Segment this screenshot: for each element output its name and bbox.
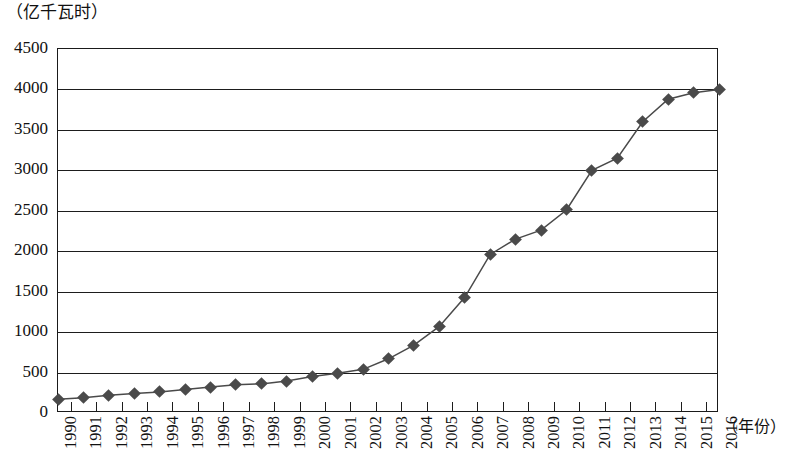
y-tick-label: 3000 [0, 160, 48, 177]
x-tick-label: 1999 [292, 416, 309, 449]
x-tick-label: 2008 [521, 416, 538, 449]
x-tick-label: 2001 [343, 416, 360, 449]
x-tick-label: 1990 [63, 416, 80, 449]
x-tick-label: 2012 [622, 416, 639, 449]
x-tick-label: 2002 [368, 416, 385, 449]
x-tick-label: 1993 [139, 416, 156, 449]
data-series-layer [58, 49, 717, 411]
x-tick-label: 2009 [546, 416, 563, 449]
plot-area [57, 48, 718, 412]
x-tick-label: 1998 [266, 416, 283, 449]
x-tick-label: 2005 [444, 416, 461, 449]
y-tick-label: 4500 [0, 39, 48, 56]
y-tick-label: 3500 [0, 120, 48, 137]
x-tick-label: 2011 [597, 416, 614, 448]
y-tick-label: 4000 [0, 79, 48, 96]
x-tick-label: 2010 [571, 416, 588, 449]
x-axis-unit-label: （年份） [722, 418, 786, 436]
x-tick-label: 1996 [216, 416, 233, 449]
y-tick-label: 1000 [0, 322, 48, 339]
x-tick-label: 2014 [673, 416, 690, 449]
y-tick-label: 2500 [0, 201, 48, 218]
x-tick-label: 2013 [648, 416, 665, 449]
x-tick-label: 2004 [419, 416, 436, 449]
x-tick-label: 2003 [394, 416, 411, 449]
y-tick-label: 2000 [0, 241, 48, 258]
x-tick-label: 2006 [470, 416, 487, 449]
y-tick-label: 1500 [0, 282, 48, 299]
x-tick-label: 1995 [190, 416, 207, 449]
y-tick-label: 500 [0, 363, 48, 380]
x-tick-label: 2000 [317, 416, 334, 449]
x-tick-label: 1994 [165, 416, 182, 449]
line-chart-figure: （亿千瓦时） 050010001500200025003000350040004… [0, 0, 789, 464]
x-tick-label: 1997 [241, 416, 258, 449]
x-tick-label: 1992 [114, 416, 131, 449]
x-tick-label: 2007 [495, 416, 512, 449]
x-tick-label: 2015 [699, 416, 716, 449]
y-tick-label: 0 [0, 403, 48, 420]
x-tick-label: 1991 [88, 416, 105, 449]
y-axis-unit-label: （亿千瓦时） [6, 2, 108, 24]
